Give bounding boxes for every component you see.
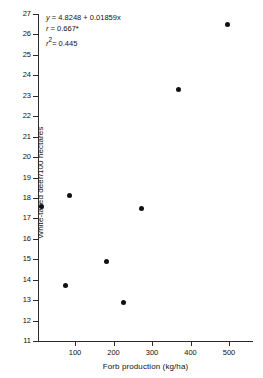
y-tick-label-13: 13 bbox=[12, 296, 31, 304]
y-tick-label-19: 19 bbox=[12, 174, 31, 182]
y-tick-label-24: 24 bbox=[12, 71, 31, 79]
y-tick-label-17: 17 bbox=[12, 214, 31, 222]
y-tick-23 bbox=[33, 96, 38, 97]
y-tick-label-11: 11 bbox=[12, 337, 31, 345]
x-tick-100 bbox=[75, 341, 76, 346]
y-tick-label-22: 22 bbox=[12, 112, 31, 120]
x-axis-line bbox=[38, 341, 253, 342]
r-squared-value: r2= 0.445 bbox=[46, 35, 121, 49]
y-tick-label-14: 14 bbox=[12, 276, 31, 284]
y-tick-label-15: 15 bbox=[12, 255, 31, 263]
y-tick-21 bbox=[33, 137, 38, 138]
y-axis-title: White-tailed deer/100 hectares bbox=[36, 63, 45, 303]
y-tick-label-16: 16 bbox=[12, 235, 31, 243]
y-tick-label-27: 27 bbox=[12, 10, 31, 18]
y-tick-25 bbox=[33, 55, 38, 56]
x-tick-label-500: 500 bbox=[214, 349, 244, 357]
x-tick-label-200: 200 bbox=[99, 349, 129, 357]
y-tick-19 bbox=[33, 178, 38, 179]
y-tick-20 bbox=[33, 157, 38, 158]
y-tick-label-18: 18 bbox=[12, 194, 31, 202]
data-point bbox=[225, 22, 230, 27]
y-tick-11 bbox=[33, 341, 38, 342]
equation-body: = 4.8248 + 0.01859x bbox=[50, 13, 121, 22]
y-tick-24 bbox=[33, 75, 38, 76]
x-tick-500 bbox=[229, 341, 230, 346]
y-tick-27 bbox=[33, 14, 38, 15]
y-tick-17 bbox=[33, 218, 38, 219]
data-point bbox=[176, 87, 181, 92]
x-axis-title: Forb production (kg/ha) bbox=[38, 362, 253, 371]
x-tick-label-300: 300 bbox=[137, 349, 167, 357]
x-tick-300 bbox=[152, 341, 153, 346]
y-tick-label-20: 20 bbox=[12, 153, 31, 161]
data-point bbox=[39, 204, 44, 209]
y-tick-16 bbox=[33, 239, 38, 240]
y-tick-13 bbox=[33, 300, 38, 301]
y-tick-label-21: 21 bbox=[12, 133, 31, 141]
y-tick-label-26: 26 bbox=[12, 30, 31, 38]
y-tick-label-25: 25 bbox=[12, 51, 31, 59]
y-axis-line bbox=[38, 14, 39, 342]
y-tick-label-23: 23 bbox=[12, 92, 31, 100]
data-point bbox=[67, 193, 72, 198]
y-tick-12 bbox=[33, 321, 38, 322]
regression-annotation: y = 4.8248 + 0.01859x r = 0.667* r2= 0.4… bbox=[46, 13, 121, 49]
data-point bbox=[121, 300, 126, 305]
data-point bbox=[104, 259, 109, 264]
scatter-plot-figure: White-tailed deer/100 hectares Forb prod… bbox=[0, 0, 263, 378]
correlation-coefficient: r = 0.667* bbox=[46, 24, 121, 35]
data-point bbox=[139, 206, 144, 211]
y-tick-15 bbox=[33, 259, 38, 260]
r-squared-body: = 0.445 bbox=[52, 38, 77, 47]
y-tick-14 bbox=[33, 280, 38, 281]
y-tick-22 bbox=[33, 116, 38, 117]
x-tick-400 bbox=[191, 341, 192, 346]
y-tick-18 bbox=[33, 198, 38, 199]
x-tick-200 bbox=[114, 341, 115, 346]
x-tick-label-400: 400 bbox=[176, 349, 206, 357]
data-point bbox=[63, 283, 68, 288]
regression-equation: y = 4.8248 + 0.01859x bbox=[46, 13, 121, 24]
y-tick-26 bbox=[33, 34, 38, 35]
x-tick-label-100: 100 bbox=[60, 349, 90, 357]
correlation-body: = 0.667* bbox=[49, 24, 79, 33]
y-tick-label-12: 12 bbox=[12, 317, 31, 325]
